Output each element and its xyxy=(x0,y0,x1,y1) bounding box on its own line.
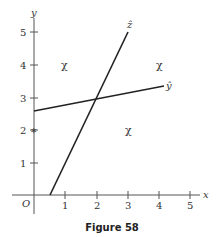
y-tick-label-2: 2 xyxy=(20,125,26,136)
star-marker-0-2: * xyxy=(31,126,37,139)
y-tick-label-3: 3 xyxy=(20,93,26,104)
y-tick-label-1: 1 xyxy=(20,158,26,169)
x-tick-label-3: 3 xyxy=(125,200,131,211)
origin-label: O xyxy=(22,198,30,209)
x-tick-label-4: 4 xyxy=(156,200,162,211)
y-hat-label: ŷ xyxy=(165,80,172,91)
y-hat-line xyxy=(34,86,164,111)
point-marker-1-4: χ xyxy=(61,59,68,72)
x-axis-label: x xyxy=(203,189,209,200)
y-tick-label-5: 5 xyxy=(20,27,26,38)
point-marker-3-2: χ xyxy=(125,124,132,137)
x-tick-label-2: 2 xyxy=(94,200,100,211)
z-hat-label: ẑ xyxy=(126,19,133,30)
x-tick-label-1: 1 xyxy=(62,200,68,211)
point-marker-4-4: χ xyxy=(156,59,163,72)
figure-caption: Figure 58 xyxy=(0,222,224,233)
x-tick-label-5: 5 xyxy=(187,200,193,211)
figure-58-diagram: y x O 1 2 3 4 5 1 2 3 4 5 ẑ ŷ χ χ χ * xyxy=(0,0,224,237)
z-hat-line xyxy=(50,32,128,195)
y-tick-label-4: 4 xyxy=(20,60,26,71)
y-axis-label: y xyxy=(30,7,37,18)
